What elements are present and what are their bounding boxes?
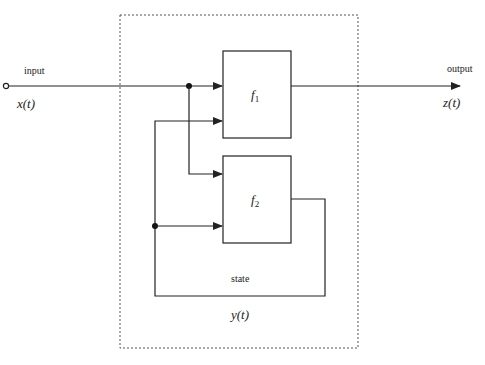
output-variable: z(t) xyxy=(442,95,460,110)
state-variable: y(t) xyxy=(229,307,249,322)
input-variable: x(t) xyxy=(16,96,35,111)
input-to-f2-line xyxy=(189,86,222,174)
block-diagram: f1 f2 input x(t) output z(t) state y(t) xyxy=(0,0,485,365)
input-label: input xyxy=(24,65,45,76)
input-terminal-icon xyxy=(3,83,8,88)
output-label: output xyxy=(447,63,473,74)
state-label: state xyxy=(231,273,250,284)
